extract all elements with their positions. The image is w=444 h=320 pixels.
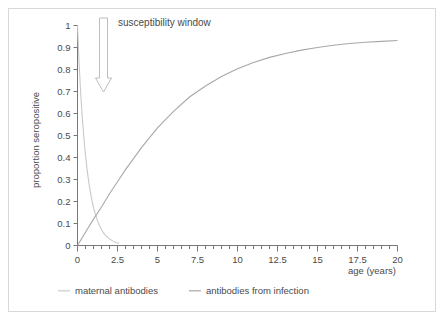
y-tick-label: 0.5 — [57, 130, 70, 141]
susceptibility-window-label: susceptibility window — [118, 17, 212, 28]
x-tick-label: 17.5 — [348, 254, 367, 265]
x-tick-label: 7.5 — [191, 254, 204, 265]
y-axis-title: proportion seropositive — [30, 92, 41, 188]
x-tick-label: 20 — [392, 254, 403, 265]
legend-item-label: maternal antibodies — [75, 285, 158, 296]
legend-item-label: antibodies from infection — [206, 285, 309, 296]
chart-figure: 00.10.20.30.40.50.60.70.80.91 02.557.510… — [0, 0, 444, 320]
x-axis: 02.557.51012.51517.520 — [75, 246, 403, 265]
y-tick-label: 0.2 — [57, 196, 70, 207]
y-tick-label: 0.7 — [57, 86, 70, 97]
x-tick-label: 5 — [155, 254, 160, 265]
y-tick-label: 0.8 — [57, 64, 70, 75]
series-line-maternal-antibodies — [78, 26, 120, 244]
down-arrow-icon — [96, 18, 112, 92]
y-tick-label: 0 — [65, 240, 70, 251]
x-tick-label: 15 — [312, 254, 323, 265]
y-tick-label: 0.4 — [57, 152, 70, 163]
y-tick-label: 0.6 — [57, 108, 70, 119]
y-tick-label: 0.1 — [57, 218, 70, 229]
x-tick-label: 10 — [232, 254, 243, 265]
y-tick-label: 0.9 — [57, 42, 70, 53]
x-tick-label: 2.5 — [111, 254, 124, 265]
data-series-group — [78, 26, 398, 246]
x-tick-label: 0 — [75, 254, 80, 265]
chart-plot-area: 00.10.20.30.40.50.60.70.80.91 02.557.510… — [0, 0, 444, 320]
y-axis: 00.10.20.30.40.50.60.70.80.91 — [57, 20, 77, 251]
y-tick-label: 0.3 — [57, 174, 70, 185]
series-line-antibodies-from-infection — [78, 40, 398, 245]
chart-legend: maternal antibodiesantibodies from infec… — [58, 285, 309, 296]
annotation-group: susceptibility window — [96, 17, 212, 92]
x-axis-title: age (years) — [348, 265, 396, 276]
y-tick-label: 1 — [65, 20, 70, 31]
x-tick-label: 12.5 — [268, 254, 287, 265]
